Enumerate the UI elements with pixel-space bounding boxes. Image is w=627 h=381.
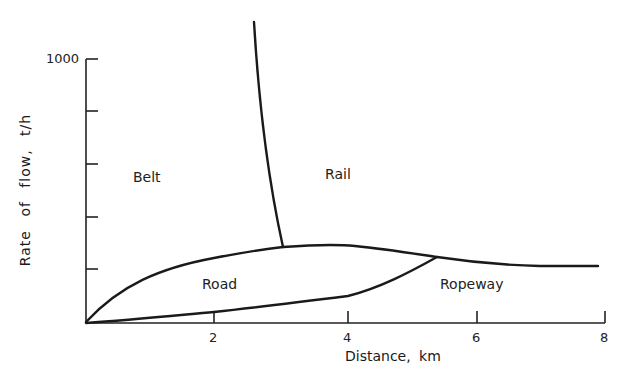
axes (86, 59, 605, 323)
y-axis-label: Rate of flow, t/h (17, 114, 33, 266)
x-tick-label-2: 2 (209, 330, 217, 345)
x-axis-label: Distance, km (345, 348, 441, 364)
y-tick-label-1000: 1000 (46, 51, 79, 66)
region-label-ropeway: Ropeway (440, 276, 503, 292)
x-tick-label-8: 8 (600, 330, 608, 345)
region-label-road: Road (202, 276, 237, 292)
x-tick-label-4: 4 (343, 330, 351, 345)
x-tick-label-6: 6 (472, 330, 480, 345)
belt-rail-boundary-curve (254, 22, 283, 247)
region-label-belt: Belt (133, 169, 161, 185)
upper-boundary-curve (86, 245, 598, 322)
region-label-rail: Rail (325, 166, 351, 182)
chart-canvas (0, 0, 627, 381)
road-ropeway-lower-curve (86, 257, 437, 323)
